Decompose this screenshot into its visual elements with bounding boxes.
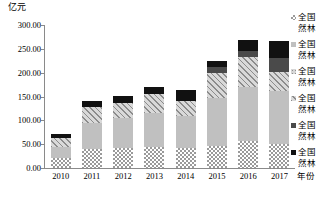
bar-segment-black: [238, 40, 258, 51]
bar-2011: [82, 101, 102, 168]
bar-2010: [51, 134, 71, 168]
y-axis-tick-label: 150.00: [0, 93, 41, 102]
legend-label: 全国 然林: [298, 120, 323, 142]
bar-segment-black: [144, 87, 164, 94]
legend-label: 全国 然林: [298, 39, 323, 61]
y-axis-tick-label: 250.00: [0, 45, 41, 54]
bar-segment-diagonal-hatch: [82, 107, 102, 123]
legend-label: 全国 然林: [298, 66, 323, 88]
legend-label: 全国 然林: [298, 12, 323, 34]
bar-2017: [269, 41, 289, 168]
bar-segment-diagonal-hatch: [269, 72, 289, 91]
y-axis-tick: [41, 25, 44, 26]
bar-segment-diagonal-hatch: [51, 138, 71, 147]
bar-segment-checkerboard: [269, 144, 289, 168]
legend-swatch-icon: [291, 150, 296, 155]
bar-segment-checkerboard: [176, 148, 196, 168]
x-axis-tick-label-2016: 2016: [231, 171, 265, 181]
legend-item-4[interactable]: 全国 然林: [291, 94, 323, 121]
y-axis-tick: [41, 120, 44, 121]
x-axis-line: [44, 168, 295, 169]
bar-segment-checkerboard: [51, 158, 71, 168]
bar-segment-light-gray: [176, 116, 196, 148]
y-axis-tick-label: 100.00: [0, 116, 41, 125]
y-axis-tick-label: 300.00: [0, 21, 41, 30]
bar-segment-diagonal-hatch: [144, 94, 164, 113]
x-axis-tick-label-2011: 2011: [75, 171, 109, 181]
y-axis-tick: [41, 73, 44, 74]
bar-segment-black: [269, 41, 289, 58]
y-axis-tick: [41, 144, 44, 145]
bar-segment-light-gray: [269, 91, 289, 144]
bar-segment-light-gray: [51, 147, 71, 157]
legend-item-2[interactable]: 全国 然林: [291, 40, 323, 67]
legend-swatch-icon: [291, 42, 296, 47]
y-axis-tick-label: 0.00: [0, 164, 41, 173]
x-axis-tick-label-2010: 2010: [44, 171, 78, 181]
x-axis-tick-label-2012: 2012: [106, 171, 140, 181]
bar-segment-checkerboard: [144, 147, 164, 168]
bar-segment-diagonal-hatch: [176, 101, 196, 115]
legend-item-6[interactable]: 全国 然林: [291, 148, 323, 175]
stacked-bar-chart: 亿元 0.0050.00100.00150.00200.00250.00300.…: [0, 0, 323, 206]
bar-segment-light-gray: [207, 98, 227, 146]
legend-swatch-icon: [291, 123, 296, 128]
bar-segment-diagonal-hatch: [238, 57, 258, 87]
chart-legend: 全国 然林全国 然林全国 然林全国 然林全国 然林全国 然林: [291, 13, 323, 175]
bar-segment-light-gray: [113, 118, 133, 148]
bar-segment-checkerboard: [82, 149, 102, 168]
legend-item-5[interactable]: 全国 然林: [291, 121, 323, 148]
bar-2013: [144, 87, 164, 168]
x-axis-tick-label-2015: 2015: [200, 171, 234, 181]
bar-2014: [176, 90, 196, 168]
bar-segment-checkerboard: [113, 148, 133, 168]
legend-swatch-icon: [291, 15, 296, 20]
bar-segment-light-gray: [238, 87, 258, 142]
bar-segment-dark-gray: [269, 58, 289, 72]
y-axis-tick-label: 200.00: [0, 69, 41, 78]
legend-label: 全国 然林: [298, 93, 323, 115]
bar-segment-light-gray: [82, 123, 102, 149]
bar-segment-diagonal-hatch: [113, 103, 133, 118]
y-axis-tick: [41, 97, 44, 98]
y-axis-unit-label: 亿元: [8, 2, 26, 13]
bar-segment-black: [207, 61, 227, 68]
bar-2016: [238, 40, 258, 168]
bar-segment-checkerboard: [207, 146, 227, 168]
bar-segment-light-gray: [144, 113, 164, 147]
legend-label: 全国 然林: [298, 147, 323, 169]
legend-swatch-icon: [291, 69, 296, 74]
y-axis-tick: [41, 168, 44, 169]
bar-segment-checkerboard: [238, 141, 258, 168]
plot-area: [45, 25, 295, 168]
y-axis-tick-label: 50.00: [0, 140, 41, 149]
legend-item-3[interactable]: 全国 然林: [291, 67, 323, 94]
x-axis-tick-label-2014: 2014: [169, 171, 203, 181]
bar-segment-black: [176, 90, 196, 101]
bar-segment-diagonal-hatch: [207, 73, 227, 98]
bar-2012: [113, 96, 133, 168]
x-axis-tick-label-2013: 2013: [137, 171, 171, 181]
legend-swatch-icon: [291, 96, 296, 101]
bar-segment-black: [113, 96, 133, 104]
legend-item-1[interactable]: 全国 然林: [291, 13, 323, 40]
bar-2015: [207, 61, 227, 168]
y-axis-tick: [41, 49, 44, 50]
